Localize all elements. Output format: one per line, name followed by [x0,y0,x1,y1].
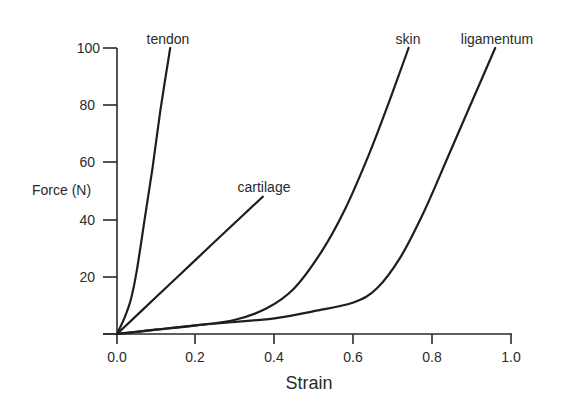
x-tick-label: 0.2 [185,349,205,365]
x-axis-title: Strain [285,373,332,393]
y-tick-label: 20 [79,269,95,285]
x-tick-label: 0.4 [264,349,284,365]
y-tick-label: 40 [79,212,95,228]
y-axis [103,48,117,335]
label-tendon: tendon [147,31,190,47]
y-axis-title: Force (N) [32,182,91,198]
curve-ligamentum [117,48,495,334]
y-tick-label: 100 [77,40,101,56]
x-tick-label: 1.0 [501,349,521,365]
x-tick-label: 0.6 [343,349,363,365]
x-axis [103,334,512,344]
y-tick-label: 60 [79,154,95,170]
label-cartilage: cartilage [238,179,291,195]
force-strain-chart: 100 80 60 40 20 0.0 0.2 0.4 0.6 0.8 1.0 … [0,0,562,405]
y-tick-label: 80 [79,97,95,113]
label-skin: skin [396,31,421,47]
x-tick-label: 0.0 [107,349,127,365]
x-tick-label: 0.8 [422,349,442,365]
label-ligamentum: ligamentum [461,31,533,47]
curve-cartilage [117,197,263,334]
